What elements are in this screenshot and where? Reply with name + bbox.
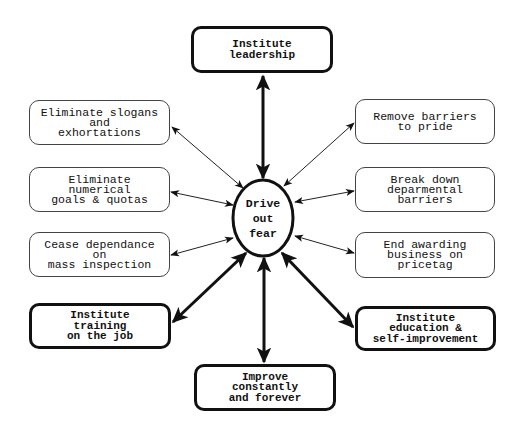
node-line: exhortations [58, 128, 141, 138]
node-line: on the job [67, 331, 133, 342]
center-node-drive-out-fear: Drive out fear [233, 180, 293, 256]
center-line: out [253, 211, 274, 226]
node-end-awarding-business: End awarding business on pricetag [355, 232, 495, 278]
node-cease-mass-inspection: Cease dependance on mass inspection [29, 232, 170, 277]
arrow-left-1 [172, 127, 243, 188]
arrow-right-1 [284, 123, 354, 186]
node-line: Institute [232, 39, 291, 50]
node-remove-barriers-pride: Remove barriers to pride [355, 99, 495, 144]
node-line: mass inspection [48, 260, 152, 270]
center-line: Drive [246, 196, 281, 211]
node-line: pricetag [397, 260, 452, 270]
node-institute-training: Institute training on the job [29, 303, 171, 349]
node-line: and forever [229, 393, 302, 404]
node-break-down-barriers: Break down deparmental barriers [355, 167, 495, 212]
arrow-left-3 [171, 238, 233, 255]
node-institute-leadership: Institute leadership [191, 26, 333, 73]
arrow-right-bold-bidirectional [282, 253, 353, 327]
arrow-right-3 [295, 236, 354, 253]
node-eliminate-quotas: Eliminate numerical goals & quotas [29, 167, 170, 212]
center-line: fear [249, 226, 277, 241]
arrow-left-2 [171, 192, 233, 205]
arrow-right-2 [295, 191, 354, 202]
node-line: self-improvement [373, 334, 479, 345]
arrow-left-bold-bidirectional [173, 253, 246, 322]
node-eliminate-slogans: Eliminate slogans and exhortations [29, 100, 170, 145]
node-institute-education: Institute education & self-improvement [355, 306, 496, 351]
node-line: leadership [229, 50, 295, 61]
node-line: to pride [397, 122, 452, 132]
node-line: goals & quotas [51, 195, 148, 205]
node-line: barriers [397, 195, 452, 205]
deming-diagram: Drive out fear Institute leadership Elim… [0, 0, 521, 431]
node-improve-constantly: Improve constantly and forever [194, 364, 336, 411]
